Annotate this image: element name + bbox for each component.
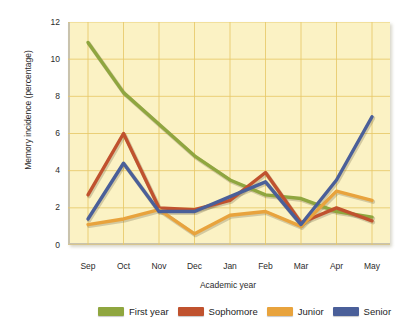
x-tick-label: Mar bbox=[281, 262, 321, 271]
y-tick-label: 8 bbox=[30, 92, 60, 101]
legend-item-junior[interactable]: Junior bbox=[267, 306, 324, 317]
legend-swatch-icon bbox=[333, 307, 359, 316]
x-tick-label: Jan bbox=[210, 262, 250, 271]
x-tick-label: Apr bbox=[317, 262, 357, 271]
legend-swatch-icon bbox=[178, 307, 204, 316]
series-lines bbox=[68, 22, 390, 245]
x-tick-label: Oct bbox=[104, 262, 144, 271]
x-tick-label: May bbox=[352, 262, 392, 271]
x-tick-label: Sep bbox=[68, 262, 108, 271]
x-tick-label: Dec bbox=[175, 262, 215, 271]
y-tick-label: 4 bbox=[30, 166, 60, 175]
y-tick-label: 0 bbox=[30, 241, 60, 250]
y-tick-label: 10 bbox=[30, 55, 60, 64]
legend-item-senior[interactable]: Senior bbox=[333, 306, 391, 317]
chart-legend: First yearSophomoreJuniorSenior bbox=[98, 306, 391, 317]
y-tick-label: 6 bbox=[30, 129, 60, 138]
legend-item-first-year[interactable]: First year bbox=[98, 306, 169, 317]
line-chart: 024681012 SepOctNovDecJanFebMarAprMay Me… bbox=[0, 0, 418, 335]
x-axis-label: Academic year bbox=[168, 280, 288, 290]
x-tick-label: Feb bbox=[246, 262, 286, 271]
legend-swatch-icon bbox=[267, 307, 293, 316]
legend-label: Junior bbox=[298, 306, 324, 317]
y-tick-label: 2 bbox=[30, 203, 60, 212]
y-tick-label: 12 bbox=[30, 18, 60, 27]
legend-label: Senior bbox=[364, 306, 391, 317]
y-axis-label: Memory incidence (percentage) bbox=[23, 30, 33, 190]
legend-label: First year bbox=[129, 306, 169, 317]
legend-label: Sophomore bbox=[209, 306, 258, 317]
x-tick-label: Nov bbox=[139, 262, 179, 271]
legend-item-sophomore[interactable]: Sophomore bbox=[178, 306, 258, 317]
legend-swatch-icon bbox=[98, 307, 124, 316]
